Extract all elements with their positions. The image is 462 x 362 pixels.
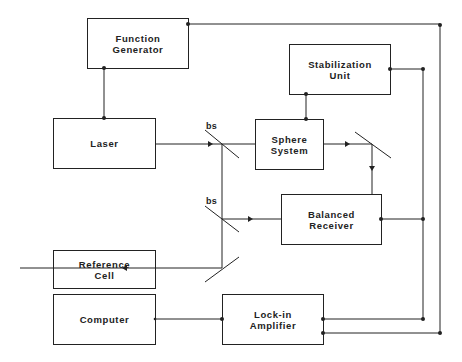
sphere-system-block: Sphere System <box>255 119 324 170</box>
laser-block: Laser <box>53 118 156 169</box>
beam-splitter-label-lower: bs <box>206 196 217 206</box>
function-generator-label: Function Generator <box>113 33 164 55</box>
laser-label: Laser <box>90 138 118 149</box>
reference-cell-label: Reference Cell <box>79 259 130 281</box>
stabilization-unit-label: Stabilization Unit <box>308 59 372 81</box>
beam-splitter-label-upper: bs <box>206 121 217 131</box>
sphere-system-label: Sphere System <box>271 134 308 156</box>
stabilization-unit-block: Stabilization Unit <box>289 44 391 95</box>
computer-label: Computer <box>80 314 130 325</box>
function-generator-block: Function Generator <box>87 18 189 69</box>
reference-cell-block: Reference Cell <box>53 250 156 289</box>
computer-block: Computer <box>53 294 156 345</box>
lockin-amplifier-label: Lock-in Amplifier <box>250 309 297 331</box>
balanced-receiver-block: Balanced Receiver <box>281 194 382 245</box>
balanced-receiver-label: Balanced Receiver <box>308 209 355 231</box>
lockin-amplifier-block: Lock-in Amplifier <box>222 294 324 345</box>
